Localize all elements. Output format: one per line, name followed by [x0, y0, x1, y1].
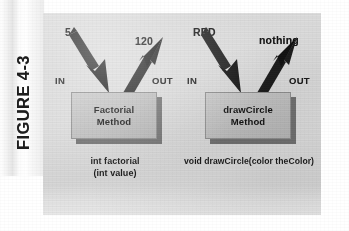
arrow-down-right-icon [69, 27, 109, 93]
method-signature-factorial: int factorial (int value) [47, 155, 183, 179]
signature-line-1: void drawCircle(color theColor) [177, 155, 321, 167]
method-box-face: Factorial Method [71, 92, 157, 139]
diagram-factorial: 5 120 IN OUT [47, 13, 183, 215]
method-box-face: drawCircle Method [205, 92, 291, 139]
arrow-down-right-icon [201, 27, 241, 93]
method-signature-drawcircle: void drawCircle(color theColor) [177, 155, 321, 167]
method-box-drawcircle[interactable]: drawCircle Method [205, 92, 291, 139]
method-box-factorial[interactable]: Factorial Method [71, 92, 157, 139]
signature-line-1: int factorial [47, 155, 183, 167]
method-box-line-2: Method [231, 116, 265, 128]
method-box-line-1: Factorial [94, 104, 135, 116]
figure-page: FIGURE 4-3 5 120 IN OUT [0, 0, 349, 231]
illustration-panel: 5 120 IN OUT [43, 13, 321, 215]
signature-line-2: (int value) [47, 167, 183, 179]
figure-number-label: FIGURE 4-3 [14, 33, 33, 173]
method-box-line-2: Method [97, 116, 131, 128]
scan-speck [33, 196, 35, 198]
diagram-drawcircle: RED nothing IN OUT [181, 13, 317, 215]
figure-number-strip: FIGURE 4-3 [0, 0, 44, 231]
method-box-line-1: drawCircle [223, 104, 273, 116]
